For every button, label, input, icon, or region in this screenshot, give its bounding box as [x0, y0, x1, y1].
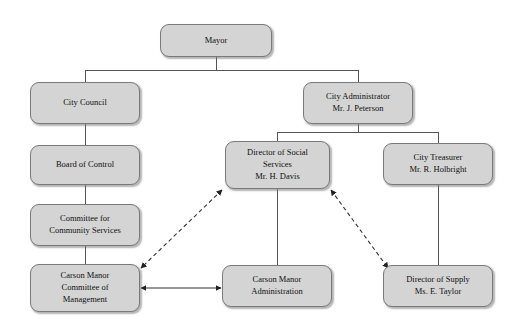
node-label: Committee for Community Services [46, 213, 124, 236]
node-carson-manor-administration[interactable]: Carson Manor Administration [222, 265, 332, 307]
node-carson-manor-committee[interactable]: Carson Manor Committee of Management [30, 264, 140, 312]
edge-mayor-bus [85, 57, 358, 82]
edge-social-services-director-supply [331, 190, 388, 268]
node-label: City Administrator Mr. J. Peterson [323, 91, 393, 114]
org-chart: Mayor City Council City Administrator Mr… [0, 0, 514, 327]
node-label: Board of Control [53, 159, 117, 171]
node-label: City Council [60, 97, 110, 109]
node-director-social-services[interactable]: Director of Social Services Mr. H. Davis [225, 141, 330, 189]
node-committee-community-services[interactable]: Committee for Community Services [30, 204, 140, 246]
node-label: Mayor [202, 35, 231, 47]
node-city-treasurer[interactable]: City Treasurer Mr. R. Holbright [383, 143, 493, 185]
node-director-of-supply[interactable]: Director of Supply Ms. E. Taylor [383, 265, 493, 307]
node-label: Carson Manor Committee of Management [58, 270, 113, 305]
node-label: Director of Social Services Mr. H. Davis [244, 147, 311, 182]
node-label: City Treasurer Mr. R. Holbright [406, 152, 469, 175]
node-label: Carson Manor Administration [248, 274, 305, 297]
node-board-of-control[interactable]: Board of Control [30, 145, 140, 185]
node-label: Director of Supply Ms. E. Taylor [403, 274, 473, 297]
node-city-administrator[interactable]: City Administrator Mr. J. Peterson [303, 82, 413, 124]
edge-social-services-carson-committee [141, 190, 222, 268]
node-mayor[interactable]: Mayor [160, 24, 272, 57]
node-city-council[interactable]: City Council [30, 82, 140, 124]
